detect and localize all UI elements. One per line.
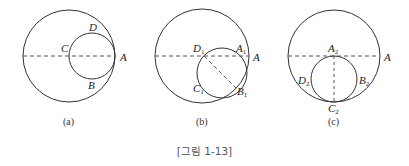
svg-text:A1: A1: [235, 42, 247, 56]
panel-b: D1 A1 C1 B1 A (b): [155, 9, 260, 128]
caption-a: (a): [63, 116, 74, 128]
label-C: C: [61, 42, 69, 54]
label-A2: A2: [327, 42, 339, 56]
label-D2: D2: [297, 74, 310, 88]
label-A1: A1: [235, 42, 247, 56]
svg-text:C2: C2: [328, 102, 339, 116]
label-B2: B2: [359, 74, 370, 88]
svg-text:D1: D1: [192, 42, 205, 56]
label-B: B: [88, 79, 95, 91]
label-D: D: [88, 21, 97, 33]
svg-text:B2: B2: [359, 74, 370, 88]
label-D1: D1: [192, 42, 205, 56]
panel-c: A2 D2 B2 C2 A (c): [288, 10, 391, 128]
svg-text:D2: D2: [297, 74, 310, 88]
svg-text:C1: C1: [193, 82, 204, 96]
chord-dashed-b: [204, 56, 236, 88]
label-A: A: [119, 51, 127, 63]
label-C1: C1: [193, 82, 204, 96]
svg-text:A2: A2: [327, 42, 339, 56]
diagram-canvas: C D B A (a) D1 A1 C1 B1 A (b) A2 D2 B2 C…: [0, 0, 409, 140]
panel-a: C D B A (a): [23, 10, 127, 128]
caption-b: (b): [196, 116, 208, 128]
label-A: A: [252, 51, 260, 63]
svg-text:B1: B1: [237, 85, 248, 99]
figure-caption: [그림 1-13]: [0, 143, 409, 158]
label-A: A: [383, 51, 391, 63]
label-B1: B1: [237, 85, 248, 99]
label-C2: C2: [328, 102, 339, 116]
caption-c: (c): [328, 116, 339, 128]
